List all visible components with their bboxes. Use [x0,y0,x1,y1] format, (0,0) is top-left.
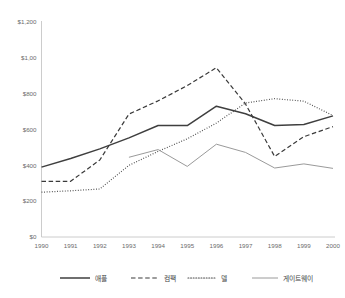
series-line [42,99,334,193]
x-tick-label: 1995 [180,242,194,249]
plot-area: $0$200$400$600$800$1,00$1,200 1990199119… [0,0,345,298]
x-tick-label: 1993 [122,242,136,249]
x-tick-label: 2000 [326,242,340,249]
x-tick-label: 1998 [268,242,282,249]
x-tick-label: 1997 [239,242,253,249]
chart-canvas: $0$200$400$600$800$1,00$1,200 1990199119… [0,0,345,298]
series-line [129,144,333,168]
legend-label-3[interactable]: 델 [221,275,227,282]
y-tick-label: $400 [23,162,37,169]
series-line [42,106,334,167]
y-tick-label: $1,200 [18,18,37,25]
legend-label-1[interactable]: 애플 [95,274,107,283]
chart-legend: 애플컴팩델게이트웨이 [60,274,313,283]
y-tick-label: $0 [30,233,37,240]
legend-label-4[interactable]: 게이트웨이 [283,274,313,283]
x-tick-label: 1999 [297,242,311,249]
x-tick-label: 1994 [151,242,165,249]
line-chart: $0$200$400$600$800$1,00$1,200 1990199119… [0,0,345,298]
x-tick-label: 1992 [93,242,107,249]
y-tick-label: $600 [23,126,37,133]
series-lines [42,68,334,193]
x-tick-label: 1990 [35,242,49,249]
y-tick-label: $800 [23,90,37,97]
x-tick-label: 1991 [64,242,78,249]
x-tick-label: 1996 [210,242,224,249]
y-axis-tick-labels: $0$200$400$600$800$1,00$1,200 [18,18,37,240]
y-tick-label: $1,00 [21,54,37,61]
legend-label-2[interactable]: 컴팩 [164,274,176,283]
y-tick-label: $200 [23,197,37,204]
x-axis-tick-labels: 1990199119921993199419951996199719981999… [35,242,341,249]
